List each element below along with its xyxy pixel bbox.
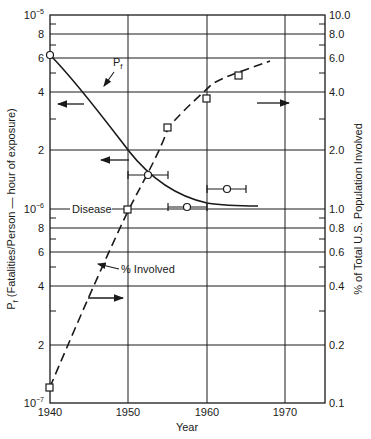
involved-point	[164, 124, 171, 131]
involved-point	[235, 72, 242, 79]
y-left-axis-title: Pf (Fatalities/Person — hour of exposure…	[5, 108, 20, 310]
svg-text:6.0: 6.0	[329, 52, 344, 64]
svg-text:2.0: 2.0	[329, 144, 344, 156]
chart: Disease 10−5 8 6 4 2 10−6 8 6 4 2 10−7 1…	[0, 0, 371, 439]
svg-text:2: 2	[38, 339, 44, 351]
disease-label: Disease	[72, 203, 112, 215]
svg-text:1940: 1940	[38, 406, 62, 418]
svg-text:4.0: 4.0	[329, 86, 344, 98]
x-axis-labels: 1940 1950 1960 1970	[38, 406, 297, 418]
svg-text:6: 6	[38, 246, 44, 258]
svg-text:8.0: 8.0	[329, 28, 344, 40]
y-right-axis-title: % of Total U.S. Population Involved	[352, 123, 364, 295]
pf-point	[184, 204, 191, 211]
pf-curve	[50, 55, 258, 206]
percent-involved-curve	[50, 61, 270, 387]
svg-text:1960: 1960	[195, 406, 219, 418]
involved-point	[124, 206, 131, 213]
svg-text:4: 4	[38, 280, 44, 292]
svg-text:4: 4	[38, 86, 44, 98]
svg-text:8: 8	[38, 222, 44, 234]
svg-text:6: 6	[38, 52, 44, 64]
svg-text:1.0: 1.0	[329, 203, 344, 215]
pf-pointer-arrow	[104, 72, 114, 86]
svg-text:0.2: 0.2	[329, 339, 344, 351]
left-axis-labels: 10−5 8 6 4 2 10−6 8 6 4 2 10−7	[24, 8, 44, 409]
pf-point	[47, 52, 54, 59]
svg-text:1950: 1950	[116, 406, 140, 418]
svg-text:10−6: 10−6	[24, 202, 44, 215]
svg-text:2: 2	[38, 144, 44, 156]
svg-text:10−5: 10−5	[24, 8, 44, 21]
svg-text:0.6: 0.6	[329, 246, 344, 258]
right-axis-labels: 10.0 8.0 6.0 4.0 2.0 1.0 0.8 0.6 0.4 0.2…	[329, 9, 350, 409]
x-axis-title: Year	[176, 421, 199, 433]
pf-point	[224, 186, 231, 193]
minor-ticks	[50, 24, 325, 311]
svg-text:10.0: 10.0	[329, 9, 350, 21]
svg-text:0.4: 0.4	[329, 280, 344, 292]
pf-points	[47, 52, 231, 211]
involved-point	[46, 384, 53, 391]
involved-point	[203, 95, 210, 102]
svg-text:0.8: 0.8	[329, 222, 344, 234]
svg-text:0.1: 0.1	[329, 397, 344, 409]
svg-text:8: 8	[38, 28, 44, 40]
involved-label: % Involved	[121, 263, 175, 275]
percent-involved-points	[46, 72, 242, 391]
pf-point	[145, 172, 152, 179]
svg-text:1970: 1970	[273, 406, 297, 418]
